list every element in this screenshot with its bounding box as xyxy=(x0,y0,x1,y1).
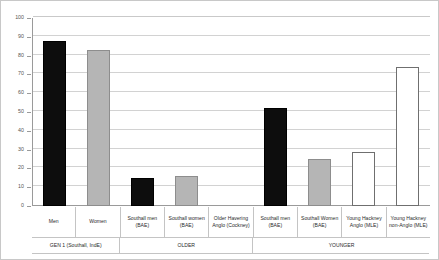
y-tick-mark xyxy=(27,37,31,38)
bar xyxy=(396,67,419,206)
bar xyxy=(131,178,154,206)
y-tick-mark xyxy=(27,168,31,169)
x-tick-label: Men xyxy=(32,207,76,237)
x-tick-label: Southall women(BAE) xyxy=(165,207,209,237)
x-tick-label: Southall men(BAE) xyxy=(254,207,298,237)
y-tick-mark xyxy=(27,131,31,132)
y-tick-label: 80 xyxy=(18,53,24,58)
x-axis-group-labels: GEN 1 (Southall, IndE)OLDERYOUNGER xyxy=(32,237,430,253)
x-tick-label: Older HaveringAnglo (Cockney) xyxy=(209,207,253,237)
bar-chart: 0102030405060708090100 MenWomenSouthall … xyxy=(0,0,439,260)
y-tick-label: 40 xyxy=(18,128,24,133)
y-tick-mark xyxy=(27,187,31,188)
gridline xyxy=(33,16,430,17)
y-tick-mark xyxy=(27,206,31,207)
x-axis-group-label: YOUNGER xyxy=(253,238,430,253)
x-axis-category-labels: MenWomenSouthall men(BAE)Southall women(… xyxy=(32,207,430,237)
x-axis-group-label: GEN 1 (Southall, IndE) xyxy=(32,238,120,253)
x-tick-label: Young HackneyAnglo (MLE) xyxy=(342,207,386,237)
bar xyxy=(352,152,375,206)
y-tick-mark xyxy=(27,93,31,94)
y-tick-label: 100 xyxy=(15,15,24,20)
y-tick-label: 70 xyxy=(18,72,24,77)
x-tick-label: Women xyxy=(76,207,120,237)
y-tick-mark xyxy=(27,18,31,19)
x-tick-label: Young Hackneynon-Anglo (MLE) xyxy=(387,207,430,237)
y-tick-label: 0 xyxy=(21,203,24,208)
y-tick-mark xyxy=(27,74,31,75)
x-tick-label: Southall men(BAE) xyxy=(121,207,165,237)
bars-layer xyxy=(32,18,430,206)
y-tick-mark xyxy=(27,112,31,113)
x-axis-group-label: OLDER xyxy=(120,238,253,253)
bottom-rule xyxy=(32,253,429,254)
y-tick-mark xyxy=(27,150,31,151)
y-tick-mark xyxy=(27,56,31,57)
y-axis: 0102030405060708090100 xyxy=(1,18,29,206)
bar xyxy=(175,176,198,206)
y-tick-label: 10 xyxy=(18,185,24,190)
y-tick-label: 60 xyxy=(18,91,24,96)
y-tick-label: 30 xyxy=(18,147,24,152)
bar xyxy=(87,50,110,206)
x-tick-label: Southall Women(BAE) xyxy=(298,207,342,237)
bar xyxy=(43,41,66,206)
y-tick-label: 50 xyxy=(18,109,24,114)
bar xyxy=(308,159,331,206)
y-tick-label: 90 xyxy=(18,34,24,39)
bar xyxy=(264,108,287,206)
y-tick-label: 20 xyxy=(18,166,24,171)
